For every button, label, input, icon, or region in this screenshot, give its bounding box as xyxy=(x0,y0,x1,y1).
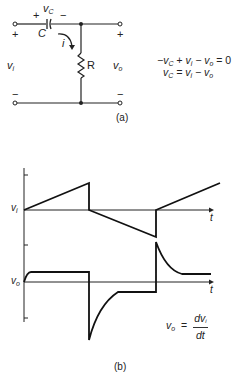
capacitor-label: C xyxy=(38,28,46,39)
input-minus-sign: − xyxy=(12,89,18,100)
vi-time-label: t xyxy=(210,213,213,223)
differentiator-relation: vo = dvi dt xyxy=(166,312,208,341)
capacitor-minus-sign: − xyxy=(60,10,66,21)
vc-label: vC xyxy=(43,3,54,14)
output-minus-sign: − xyxy=(117,89,123,100)
output-voltage-label: vo xyxy=(113,60,122,71)
kvl-equation-2: vC = vi − vo xyxy=(163,66,213,80)
vi-axis-label: vi xyxy=(11,203,18,213)
caption-a: (a) xyxy=(116,113,128,123)
caption-b: (b) xyxy=(114,362,126,372)
output-plus-sign: + xyxy=(117,29,123,40)
vo-time-label: t xyxy=(210,285,213,295)
input-voltage-label: vi xyxy=(7,60,14,71)
input-plus-sign: + xyxy=(12,29,18,40)
current-label: i xyxy=(62,38,64,49)
vo-axis-label: vo xyxy=(11,276,20,286)
resistor-label: R xyxy=(87,60,95,71)
derivative-fraction: dvi dt xyxy=(193,312,207,341)
capacitor-plus-sign: + xyxy=(33,10,39,21)
